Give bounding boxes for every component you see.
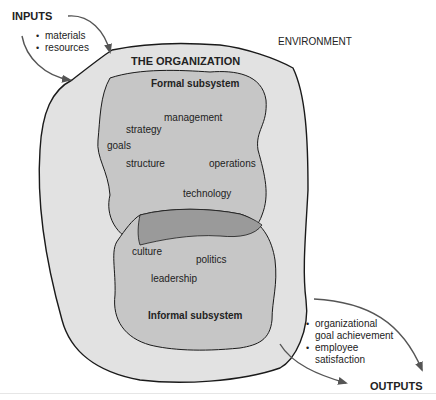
formal-element-goals: goals xyxy=(107,140,131,152)
environment-label: ENVIRONMENT xyxy=(278,36,352,48)
outputs-list: organizational goal achievement employee… xyxy=(306,318,393,366)
inputs-title: INPUTS xyxy=(12,10,52,22)
input-item: materials xyxy=(36,30,89,42)
formal-element-structure: structure xyxy=(126,158,165,170)
formal-subsystem-title: Formal subsystem xyxy=(151,78,239,90)
informal-subsystem-title: Informal subsystem xyxy=(148,310,242,322)
formal-element-strategy: strategy xyxy=(126,124,162,136)
outputs-title: OUTPUTS xyxy=(370,380,423,392)
informal-element-politics: politics xyxy=(196,254,227,266)
input-item: resources xyxy=(36,42,89,54)
bottom-divider xyxy=(0,393,436,394)
informal-element-leadership: leadership xyxy=(151,273,197,285)
formal-element-management: management xyxy=(164,112,222,124)
output-item: organizational goal achievement xyxy=(306,318,393,342)
informal-element-culture: culture xyxy=(132,246,162,258)
output-item: employee satisfaction xyxy=(306,342,393,366)
organization-title: THE ORGANIZATION xyxy=(131,55,240,67)
inputs-list: materials resources xyxy=(36,30,89,54)
formal-element-operations: operations xyxy=(209,158,256,170)
formal-element-technology: technology xyxy=(183,188,231,200)
